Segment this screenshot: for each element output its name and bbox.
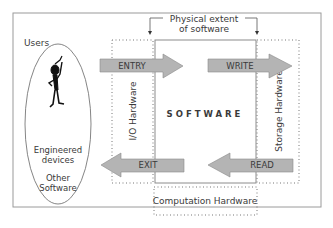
read-label: READ <box>250 160 274 170</box>
physical-extent-label-1: Physical extent <box>170 14 239 24</box>
exit-label: EXIT <box>139 160 159 170</box>
computation-hardware-label: Computation Hardware <box>153 196 258 206</box>
software-extent-diagram: Physical extent of software Users Engine… <box>0 0 333 228</box>
exit-arrow: EXIT <box>101 153 184 177</box>
physical-extent-label-2: of software <box>179 24 230 34</box>
read-arrow: READ <box>208 153 293 177</box>
write-label: WRITE <box>226 61 253 71</box>
engineered-devices-label-1: Engineered <box>34 145 82 155</box>
bracket-arrowhead-right <box>255 31 259 35</box>
user-figure-icon <box>49 56 64 107</box>
other-software-label-1: Other <box>46 173 71 183</box>
bracket-arrowhead-left <box>148 31 152 35</box>
users-label: Users <box>24 38 50 48</box>
storage-hardware-label: Storage Hardware <box>274 70 284 152</box>
entry-label: ENTRY <box>118 61 146 71</box>
software-label: SOFTWARE <box>167 109 244 119</box>
engineered-devices-label-2: devices <box>42 155 75 165</box>
io-hardware-label: I/O Hardware <box>128 81 138 141</box>
other-software-label-2: Software <box>39 183 76 193</box>
